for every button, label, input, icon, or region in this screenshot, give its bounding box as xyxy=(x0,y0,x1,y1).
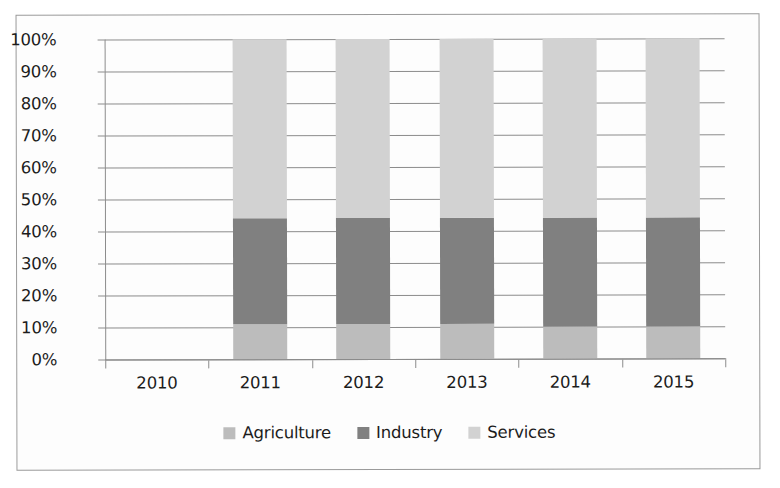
gridline-20 xyxy=(105,294,725,296)
x-axis-tick xyxy=(622,360,623,368)
y-axis-label: 80% xyxy=(0,94,57,113)
y-axis-tick xyxy=(98,40,105,41)
x-axis-tick xyxy=(209,360,210,368)
bar-segment-agriculture-2015[interactable] xyxy=(647,326,701,358)
y-axis-label: 60% xyxy=(0,158,57,177)
y-axis-label: 50% xyxy=(0,190,57,209)
bar-segment-industry-2014[interactable] xyxy=(543,218,597,327)
x-axis: 201020112012201320142015 xyxy=(17,14,759,16)
y-axis-label: 40% xyxy=(0,222,57,241)
plot-area xyxy=(105,38,726,359)
bar-segment-industry-2015[interactable] xyxy=(646,218,700,327)
y-axis-label: 90% xyxy=(0,62,57,81)
y-axis-tick xyxy=(98,264,105,265)
y-axis-label: 0% xyxy=(0,350,57,369)
bar-segment-agriculture-2012[interactable] xyxy=(336,324,390,359)
legend-swatch-icon xyxy=(223,427,235,439)
x-axis-tick xyxy=(105,361,106,369)
bar-2011[interactable] xyxy=(233,39,288,359)
legend-label: Agriculture xyxy=(242,423,331,442)
x-axis-tick xyxy=(415,360,416,368)
legend-swatch-icon xyxy=(468,426,480,438)
gridline-60 xyxy=(105,166,725,168)
y-axis-tick xyxy=(98,200,105,201)
legend-label: Industry xyxy=(376,423,442,442)
bar-2013[interactable] xyxy=(439,39,494,359)
chart-frame: 0%10%20%30%40%50%60%70%80%90%100% 201020… xyxy=(16,13,761,471)
y-axis-tick xyxy=(98,328,105,329)
x-axis-label-2012: 2012 xyxy=(319,373,409,392)
gridline-30 xyxy=(105,262,725,264)
bar-segment-services-2011[interactable] xyxy=(233,39,287,218)
bar-segment-agriculture-2013[interactable] xyxy=(440,324,494,359)
y-axis-tick xyxy=(98,296,105,297)
y-axis-tick xyxy=(98,136,105,137)
bar-segment-services-2015[interactable] xyxy=(646,38,700,217)
y-axis-label: 10% xyxy=(0,318,57,337)
y-axis-label: 20% xyxy=(0,286,57,305)
legend-item-agriculture[interactable]: Agriculture xyxy=(223,423,331,442)
y-axis-label: 30% xyxy=(0,254,57,273)
gridline-100 xyxy=(105,38,725,40)
y-axis-tick xyxy=(98,232,105,233)
gridline-80 xyxy=(105,102,725,104)
y-axis-tick xyxy=(98,72,105,73)
bar-segment-industry-2012[interactable] xyxy=(336,218,390,324)
x-axis-tick xyxy=(312,360,313,368)
x-axis-label-2010: 2010 xyxy=(112,373,202,392)
y-axis-tick xyxy=(98,104,105,105)
y-axis-label: 70% xyxy=(0,126,57,145)
bar-segment-industry-2011[interactable] xyxy=(233,218,287,324)
bar-2014[interactable] xyxy=(543,39,598,359)
x-axis-tick xyxy=(519,360,520,368)
legend-item-industry[interactable]: Industry xyxy=(357,423,442,442)
bar-segment-agriculture-2011[interactable] xyxy=(233,324,287,359)
bar-segment-agriculture-2014[interactable] xyxy=(543,327,597,359)
bar-2012[interactable] xyxy=(336,39,391,359)
gridline-50 xyxy=(105,198,725,200)
gridline-40 xyxy=(105,230,725,232)
x-axis-tick xyxy=(725,359,726,367)
gridline-10 xyxy=(105,326,725,328)
gridline-70 xyxy=(105,134,725,136)
y-axis-tick xyxy=(98,168,105,169)
y-axis: 0%10%20%30%40%50%60%70%80%90%100% xyxy=(17,14,759,16)
gridline-90 xyxy=(105,70,725,72)
bar-2015[interactable] xyxy=(646,38,701,358)
chart-legend: AgricultureIndustryServices xyxy=(17,422,761,443)
bar-segment-services-2012[interactable] xyxy=(336,39,390,218)
x-axis-label-2014: 2014 xyxy=(525,373,615,392)
y-axis-label: 100% xyxy=(0,30,57,49)
x-axis-label-2011: 2011 xyxy=(215,373,305,392)
legend-swatch-icon xyxy=(357,427,369,439)
bar-segment-services-2014[interactable] xyxy=(543,39,597,218)
y-axis-tick xyxy=(98,360,105,361)
bar-segment-industry-2013[interactable] xyxy=(440,218,494,324)
legend-item-services[interactable]: Services xyxy=(468,423,555,442)
x-axis-label-2015: 2015 xyxy=(629,372,719,391)
legend-label: Services xyxy=(487,423,555,442)
x-axis-label-2013: 2013 xyxy=(422,373,512,392)
bar-segment-services-2013[interactable] xyxy=(439,39,493,218)
